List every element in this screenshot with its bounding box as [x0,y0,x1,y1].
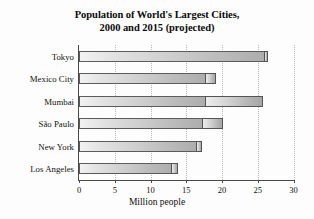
y-axis-label-los-angeles: Los Angeles [30,164,74,174]
bar-row [79,96,294,107]
bar-segment-2000 [79,118,203,129]
bar-segment-2000 [79,141,197,152]
bar-row [79,163,294,174]
tick-mark-20 [222,180,223,183]
x-tick-label-5: 5 [105,185,125,195]
bar-row [79,141,294,152]
bar-segment-2000 [79,163,172,174]
chart-title-line-2: 2000 and 2015 (projected) [0,22,314,35]
bar-row [79,51,294,62]
chart-title: Population of World's Largest Cities, 20… [0,9,314,34]
y-axis-label-new-york: New York [38,142,74,152]
tick-mark-10 [151,180,152,183]
bar-segment-2015 [202,118,223,129]
bar-segment-2000 [79,73,206,84]
x-tick-label-0: 0 [69,185,89,195]
gridline-5 [115,45,117,180]
gridline-10 [151,45,153,180]
chart-title-line-1: Population of World's Largest Cities, [0,9,314,22]
bar-segment-2000 [79,96,206,107]
x-tick-label-25: 25 [248,185,268,195]
x-tick-label-10: 10 [141,185,161,195]
x-tick-label-20: 20 [212,185,232,195]
tick-mark-15 [186,180,187,183]
bar-segment-2015 [264,51,268,62]
tick-mark-5 [115,180,116,183]
gridline-25 [258,45,260,180]
plot-area: 051015202530 [79,45,294,180]
x-tick-label-15: 15 [176,185,196,195]
y-axis-line [78,45,79,181]
bar-segment-2000 [79,51,265,62]
y-axis-label-s-o-paulo: São Paulo [39,119,74,129]
tick-mark-30 [294,180,295,183]
bar-row [79,118,294,129]
gridline-15 [186,45,188,180]
bar-segment-2015 [205,73,216,84]
x-tick-label-30: 30 [284,185,304,195]
tick-mark-0 [79,180,80,183]
x-axis-title: Million people [0,197,314,207]
bar-segment-2015 [205,96,263,107]
bar-segment-2015 [196,141,202,152]
y-axis-label-mumbai: Mumbai [44,97,74,107]
bar-segment-2015 [171,163,178,174]
population-bar-chart: Population of World's Largest Cities, 20… [0,0,314,219]
y-axis-label-mexico-city: Mexico City [30,74,74,84]
bar-row [79,73,294,84]
gridline-20 [222,45,224,180]
tick-mark-25 [258,180,259,183]
gridline-30 [294,45,296,180]
y-axis-label-tokyo: Tokyo [52,52,74,62]
